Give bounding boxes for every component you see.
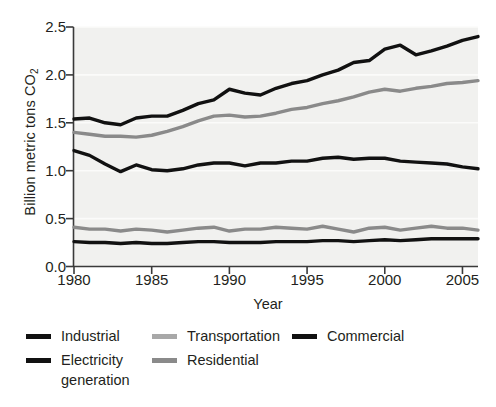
chart-legend: IndustrialElectricity generation Transpo… <box>0 326 496 407</box>
legend-swatch-icon <box>292 334 317 339</box>
legend-label: Residential <box>187 350 259 370</box>
x-axis-tick-label: 1985 <box>117 272 187 287</box>
legend-label: Commercial <box>327 326 404 346</box>
legend-item[interactable]: Commercial <box>292 326 452 347</box>
x-axis-title: Year <box>0 296 496 312</box>
legend-column-3: Commercial <box>292 326 452 350</box>
legend-label: Transportation <box>187 326 280 346</box>
legend-swatch-icon <box>152 358 177 363</box>
x-axis-tick-label: 1980 <box>39 272 109 287</box>
x-axis-tick-label: 2000 <box>350 272 420 287</box>
legend-swatch-icon <box>26 334 51 339</box>
legend-column-2: TransportationResidential <box>152 326 302 374</box>
x-axis-tick-labels: 198019851990199520002005 <box>0 0 496 300</box>
x-axis-tick-label: 1990 <box>194 272 264 287</box>
co2-emissions-line-chart: Billion metric tons CO2 0.00.51.01.52.02… <box>0 0 496 407</box>
plot-figure: Billion metric tons CO2 0.00.51.01.52.02… <box>0 0 496 300</box>
x-axis-tick-label: 1995 <box>272 272 342 287</box>
legend-item[interactable]: Transportation <box>152 326 302 347</box>
x-axis-title-text: Year <box>213 296 282 312</box>
x-axis-tick-label: 2005 <box>427 272 496 287</box>
legend-swatch-icon <box>26 358 51 363</box>
legend-swatch-icon <box>152 334 177 339</box>
legend-label: Industrial <box>61 326 120 346</box>
legend-label: Electricity generation <box>61 350 130 390</box>
legend-item[interactable]: Residential <box>152 350 302 371</box>
